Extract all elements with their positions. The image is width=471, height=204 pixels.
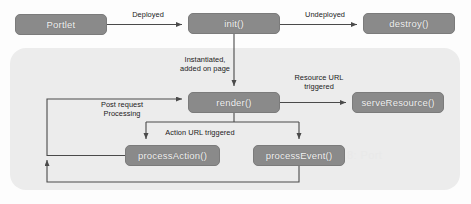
edge-label-post-request-processing: Post request Processing [88,100,156,118]
node-destroy[interactable]: destroy() [363,13,455,34]
edge-label-instantiated-added-on-page: Instantiated, added on page [165,55,245,73]
edge-label-action-url-triggered: Action URL triggered [155,128,245,137]
node-processevent-label: processEvent() [266,150,333,161]
node-portlet-label: Portlet [47,19,76,30]
node-destroy-label: destroy() [389,18,428,29]
edge-label-deployed: Deployed [117,10,179,19]
node-processevent[interactable]: processEvent() [253,145,345,166]
node-processaction-label: processAction() [138,150,207,161]
node-serveresource[interactable]: serveResource() [352,92,444,113]
node-render[interactable]: render() [188,92,280,113]
edge-label-resource-url-triggered: Resource URL triggered [285,73,353,91]
node-processaction[interactable]: processAction() [125,145,220,166]
node-portlet[interactable]: Portlet [15,14,107,35]
node-init-label: init() [224,18,244,29]
edge-label-undeployed: Undeployed [291,10,359,19]
node-init[interactable]: init() [188,13,280,34]
node-render-label: render() [216,97,251,108]
edge-render-split-bus [146,113,299,122]
node-serveresource-label: serveResource() [361,97,434,108]
portlet-lifecycle-diagram: Figure 2.8: Port Portlet [0,0,471,204]
